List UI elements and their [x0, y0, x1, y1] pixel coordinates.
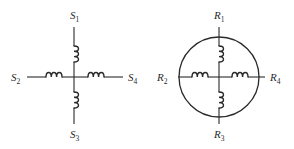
stator-diagram: S1 S2 S3 S4	[11, 9, 138, 143]
rotor-diagram: R1 R2 R3 R4	[156, 9, 281, 143]
stator-label-s4: S4	[128, 71, 138, 86]
rotor-label-r3: R3	[213, 128, 225, 143]
rotor-label-r4: R4	[269, 71, 281, 86]
stator-label-s2: S2	[11, 71, 21, 86]
stator-coil-left-icon	[46, 73, 62, 78]
rotor-coil-bottom-icon	[219, 92, 224, 108]
stator-coil-right-icon	[88, 73, 104, 78]
rotor-coil-right-icon	[232, 73, 248, 78]
stator-label-s3: S3	[70, 128, 80, 143]
rotor-label-r1: R1	[213, 9, 225, 24]
rotor-coil-left-icon	[192, 73, 208, 78]
rotor-label-r2: R2	[156, 71, 168, 86]
winding-diagram: S1 S2 S3 S4 R1	[0, 0, 294, 149]
stator-label-s1: S1	[70, 9, 80, 24]
stator-coil-top-icon	[74, 46, 79, 62]
stator-coil-bottom-icon	[74, 92, 79, 108]
rotor-coil-top-icon	[219, 46, 224, 62]
